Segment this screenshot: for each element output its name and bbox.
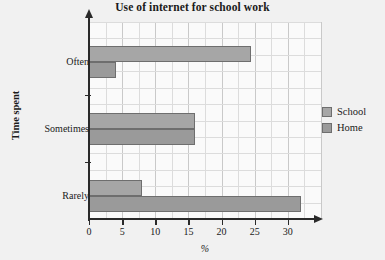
category-label-often: Often: [11, 56, 89, 67]
x-tick: [155, 219, 156, 225]
bar-rarely-school: [89, 180, 142, 196]
x-axis-arrow-icon: [314, 215, 323, 223]
legend-swatch-icon-school: [322, 107, 332, 117]
x-tick-label: 15: [173, 226, 203, 237]
x-tick: [188, 219, 189, 225]
x-tick: [255, 219, 256, 225]
legend-swatch-icon-home: [322, 123, 332, 133]
category-label-rarely: Rarely: [11, 190, 89, 201]
gridline-horizontal: [89, 88, 321, 89]
legend-item-school: School: [322, 106, 366, 117]
y-axis-arrow-icon: [85, 9, 93, 18]
y-tick: [85, 95, 91, 96]
legend-item-home: Home: [322, 122, 366, 133]
y-axis-title: Time spent: [10, 71, 21, 161]
chart-title: Use of internet for school work: [0, 1, 385, 13]
x-tick: [222, 219, 223, 225]
x-tick: [89, 219, 90, 225]
legend-label-home: Home: [337, 122, 363, 133]
gridline-horizontal: [89, 170, 321, 171]
plot-area: [89, 22, 321, 219]
x-tick-label: 25: [240, 226, 270, 237]
bar-often-school: [89, 46, 251, 62]
x-tick: [288, 219, 289, 225]
x-tick-label: 10: [140, 226, 170, 237]
y-tick: [85, 162, 91, 163]
x-tick: [122, 219, 123, 225]
gridline-horizontal: [89, 22, 321, 23]
bar-rarely-home: [89, 196, 301, 212]
bar-often-home: [89, 62, 116, 78]
category-label-sometimes: Sometimes: [11, 123, 89, 134]
x-tick-label: 0: [74, 226, 104, 237]
bar-sometimes-school: [89, 113, 195, 129]
x-tick-label: 30: [273, 226, 303, 237]
x-tick-label: 20: [207, 226, 237, 237]
bar-sometimes-home: [89, 129, 195, 145]
legend: School Home: [322, 106, 366, 138]
gridline-horizontal: [89, 71, 321, 72]
gridline-horizontal: [89, 104, 321, 105]
legend-label-school: School: [337, 106, 366, 117]
x-axis-title: %: [89, 243, 321, 254]
bar-chart: Use of internet for school work 05101520…: [0, 0, 385, 260]
gridline-horizontal: [89, 153, 321, 154]
x-tick-label: 5: [107, 226, 137, 237]
gridline-horizontal: [89, 38, 321, 39]
